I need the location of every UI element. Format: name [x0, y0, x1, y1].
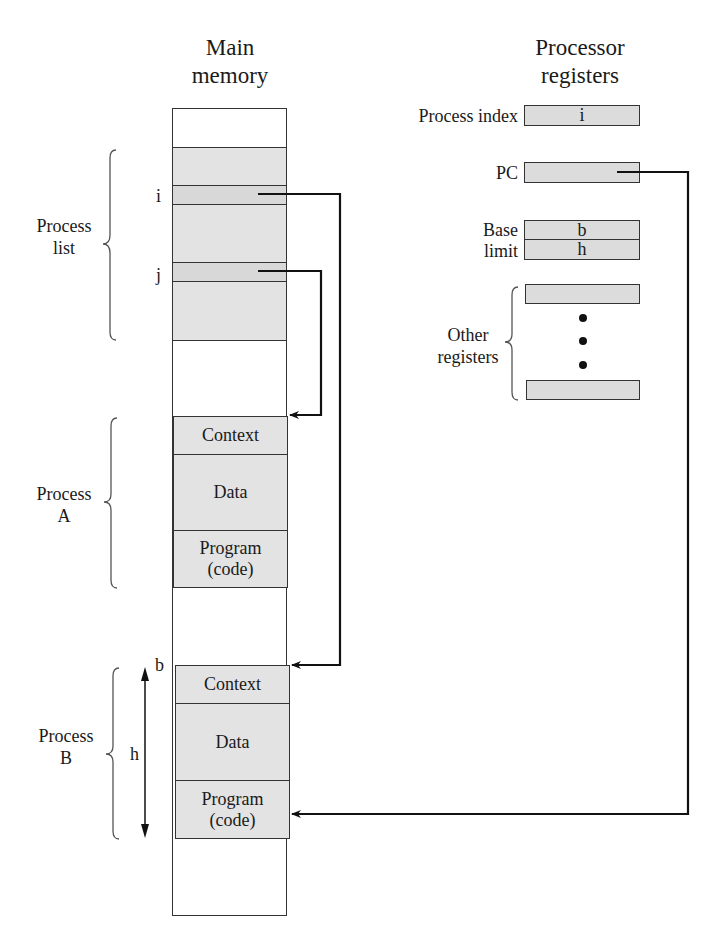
pointer-i-to-process-b [258, 194, 340, 665]
ellipsis-dot-icon [579, 337, 587, 345]
brace-process-list [103, 150, 116, 340]
ellipsis-dot-icon [579, 361, 587, 369]
arrow-up-icon [141, 667, 149, 681]
arrow-down-icon [141, 824, 149, 838]
brace-process-b [106, 668, 119, 839]
pointer-j-to-process-a [258, 271, 321, 415]
pointer-pc-to-program [292, 172, 688, 814]
brace-process-a [104, 418, 117, 588]
brace-other-registers [505, 287, 518, 400]
ellipsis-dot-icon [579, 314, 587, 322]
connector-layer [0, 0, 722, 937]
